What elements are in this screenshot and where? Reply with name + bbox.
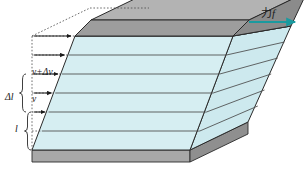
label-force-word: 力	[261, 7, 272, 20]
label-force-symbol: f	[272, 7, 275, 19]
label-velocity-upper: v+Δv	[32, 68, 53, 78]
figure-canvas	[0, 0, 304, 171]
shear-deformation-figure: v+Δv Δl v l 力f	[0, 0, 304, 171]
l-brace	[25, 112, 32, 150]
base-slab-front	[32, 150, 190, 162]
label-delta-length: Δl	[5, 92, 14, 102]
label-length: l	[15, 124, 18, 134]
label-force: 力f	[261, 4, 275, 20]
label-velocity-lower: v	[32, 95, 36, 105]
dimension-braces	[20, 74, 32, 150]
delta-l-brace	[20, 74, 27, 112]
top-plate-front-strip	[75, 20, 249, 36]
